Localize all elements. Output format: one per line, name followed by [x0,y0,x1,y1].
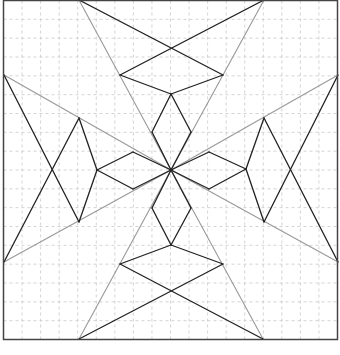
black-line [171,245,223,264]
quilt-block-diagram [0,0,340,355]
gray-line [79,0,171,170]
black-line [152,94,171,132]
black-line [97,170,133,189]
black-line [79,170,97,222]
black-line [171,75,223,94]
black-line [79,0,223,75]
gray-line [171,75,338,170]
black-line [246,169,264,222]
black-line [120,245,171,264]
black-line [133,152,171,170]
black-line [209,152,246,169]
gray-line [4,75,171,170]
black-line [264,75,338,222]
black-line [4,118,79,262]
black-line [120,0,264,75]
black-line [4,75,79,222]
black-line [264,118,338,262]
black-line [120,75,171,94]
black-line [120,264,263,339]
black-line [209,169,246,189]
black-line [171,152,209,170]
black-star-lines [4,0,338,339]
black-line [171,94,191,132]
black-line [97,152,133,170]
